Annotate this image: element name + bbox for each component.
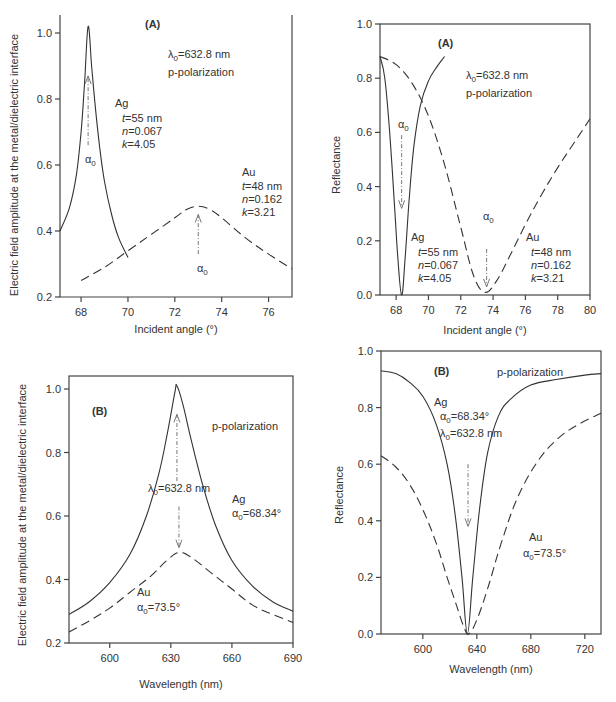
annotation-text: Ag [232, 493, 245, 505]
annotation-text: λ0=632.8 nm [148, 482, 210, 497]
y-tick-label: 0.2 [37, 291, 52, 303]
x-axis-label-top-right: Incident angle (°) [443, 324, 526, 336]
annotation-text: λ0=632.8 nm [466, 69, 528, 84]
annotation-text: t=55 nm [418, 246, 458, 258]
annotation-text: α0=68.34° [232, 507, 281, 522]
panel-label: (A) [438, 37, 454, 49]
annotation-text: α0=73.5° [137, 601, 180, 616]
arrowhead-icon [195, 215, 201, 223]
y-tick-label: 1.0 [358, 345, 373, 357]
x-tick-label: 640 [468, 643, 486, 655]
annotation-text: α0 [197, 262, 208, 277]
x-tick-label: 80 [584, 304, 596, 316]
y-tick-label: 0.4 [37, 225, 52, 237]
y-tick-label: 0.2 [358, 571, 373, 583]
annotation-text: α0=68.34° [440, 410, 489, 425]
y-tick-label: 0.8 [357, 72, 372, 84]
series-ag-curve [69, 384, 293, 614]
y-tick-label: 0.4 [46, 574, 61, 586]
y-tick-label: 1.0 [46, 383, 61, 395]
annotation-text: Au [526, 231, 539, 243]
x-tick-label: 68 [75, 306, 87, 318]
x-tick-label: 76 [519, 304, 531, 316]
x-tick-label: 600 [101, 652, 119, 664]
y-tick-label: 0.8 [37, 93, 52, 105]
y-axis-label-top-right: Reflectance [330, 136, 342, 194]
annotation-text: α0 [483, 210, 494, 225]
x-tick-label: 72 [455, 304, 467, 316]
y-tick-label: 0.2 [46, 637, 61, 649]
chart-bottom-left-field-vs-wavelength: 6006306606900.20.40.60.81.0(B)p-polariza… [46, 376, 302, 664]
annotation-text: Ag [115, 97, 128, 109]
panel-label: (B) [434, 365, 450, 377]
annotation-text: n=0.162 [242, 193, 282, 205]
panel-label: (A) [145, 18, 161, 30]
annotation-text: Au [242, 166, 255, 178]
annotation-text: p-polarization [497, 366, 563, 378]
chart-top-left-field-vs-angle: 68707274760.20.40.60.81.0(A)λ0=632.8 nmp… [37, 15, 292, 318]
annotation-text: p-polarization [466, 87, 532, 99]
y-tick-label: 1.0 [37, 27, 52, 39]
y-tick-label: 0.6 [46, 510, 61, 522]
annotation-text: k=4.05 [418, 272, 451, 284]
series-au-curve [381, 413, 601, 634]
figure-canvas: 68707274760.20.40.60.81.0(A)λ0=632.8 nmp… [0, 0, 616, 702]
annotation-text: λ0=632.8 nm [168, 48, 230, 63]
annotation-text: n=0.162 [531, 259, 571, 271]
annotation-text: α0 [398, 118, 409, 133]
x-axis-label-top-left: Incident angle (°) [134, 323, 217, 335]
x-axis-label-bottom-left: Wavelength (nm) [139, 678, 222, 690]
y-axis-label-bottom-right: Reflectance [333, 466, 345, 524]
x-tick-label: 690 [284, 652, 302, 664]
y-tick-label: 0.8 [46, 447, 61, 459]
annotation-text: p-polarization [168, 66, 234, 78]
x-tick-label: 680 [522, 643, 540, 655]
annotation-text: α0=73.5° [523, 547, 566, 562]
x-axis-label-bottom-right: Wavelength (nm) [449, 663, 532, 675]
y-tick-label: 0.0 [357, 289, 372, 301]
chart-top-right-reflectance-vs-angle: 687072747678800.00.20.40.60.81.0(A)λ0=63… [357, 18, 596, 316]
series-ag-curve [381, 371, 601, 634]
annotation-text: λ0=632.8 nm [440, 427, 502, 442]
annotation-text: Au [529, 531, 542, 543]
annotation-text: t=48 nm [242, 180, 282, 192]
y-tick-label: 0.8 [358, 402, 373, 414]
x-tick-label: 72 [169, 306, 181, 318]
x-tick-label: 70 [122, 306, 134, 318]
y-axis-label-bottom-left: Electric field amplitude at the metal/di… [16, 384, 28, 646]
panel-label: (B) [92, 405, 108, 417]
x-tick-label: 660 [223, 652, 241, 664]
annotation-text: Ag [411, 231, 424, 243]
x-tick-label: 720 [576, 643, 594, 655]
annotation-text: k=4.05 [122, 138, 155, 150]
y-tick-label: 0.6 [358, 458, 373, 470]
annotation-text: p-polarization [212, 420, 278, 432]
series-ag-curve [60, 26, 128, 257]
annotation-text: k=3.21 [242, 206, 275, 218]
chart-bottom-right-reflectance-vs-wavelength: 6006406807200.00.20.40.60.81.0(B)p-polar… [358, 345, 601, 655]
annotation-text: n=0.067 [122, 125, 162, 137]
x-tick-label: 600 [414, 643, 432, 655]
y-tick-label: 0.6 [37, 159, 52, 171]
x-tick-label: 74 [216, 306, 228, 318]
x-tick-label: 630 [162, 652, 180, 664]
x-tick-label: 70 [422, 304, 434, 316]
annotation-text: k=3.21 [531, 272, 564, 284]
x-tick-label: 76 [262, 306, 274, 318]
x-tick-label: 68 [390, 304, 402, 316]
annotation-text: t=55 nm [122, 112, 162, 124]
y-tick-label: 0.4 [357, 181, 372, 193]
y-tick-label: 0.6 [357, 126, 372, 138]
annotation-text: Au [137, 586, 150, 598]
y-tick-label: 0.2 [357, 235, 372, 247]
y-tick-label: 1.0 [357, 18, 372, 30]
annotation-text: t=48 nm [531, 246, 571, 258]
annotation-text: n=0.067 [418, 259, 458, 271]
x-tick-label: 78 [552, 304, 564, 316]
y-tick-label: 0.0 [358, 628, 373, 640]
arrowhead-icon [174, 414, 180, 422]
annotation-text: α0 [85, 153, 96, 168]
y-tick-label: 0.4 [358, 515, 373, 527]
annotation-text: Ag [434, 396, 447, 408]
x-tick-label: 74 [487, 304, 499, 316]
